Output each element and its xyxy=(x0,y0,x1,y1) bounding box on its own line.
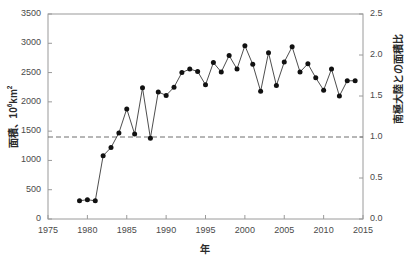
x-axis-tick-label: 1980 xyxy=(67,225,107,235)
y-axis-right-tick-label: 1.5 xyxy=(370,90,410,100)
data-point-marker xyxy=(242,43,247,48)
data-point-marker xyxy=(227,53,232,58)
x-axis-tick-label: 2005 xyxy=(264,225,304,235)
data-point-marker xyxy=(156,89,161,94)
x-axis-tick-label: 2010 xyxy=(304,225,344,235)
plot-area xyxy=(0,0,410,258)
y-axis-right-tick-label: 0.0 xyxy=(370,213,410,223)
y-axis-left-tick-label: 3000 xyxy=(0,37,41,47)
y-axis-left-tick-label: 0 xyxy=(0,213,41,223)
x-axis-tick-label: 2000 xyxy=(225,225,265,235)
data-point-marker xyxy=(77,198,82,203)
data-point-marker xyxy=(211,60,216,65)
data-point-marker xyxy=(235,67,240,72)
x-axis-tick-label: 1995 xyxy=(186,225,226,235)
data-point-marker xyxy=(329,67,334,72)
data-point-marker xyxy=(109,145,114,150)
data-point-marker xyxy=(179,70,184,75)
data-point-marker xyxy=(172,85,177,90)
data-point-marker xyxy=(313,75,318,80)
data-point-marker xyxy=(116,130,121,135)
data-point-marker xyxy=(266,50,271,55)
data-point-marker xyxy=(305,61,310,66)
data-point-marker xyxy=(195,69,200,74)
data-series-line xyxy=(80,46,356,201)
x-axis-tick-label: 1985 xyxy=(107,225,147,235)
y-axis-right-tick-label: 1.0 xyxy=(370,131,410,141)
data-point-marker xyxy=(337,94,342,99)
data-point-marker xyxy=(353,78,358,83)
y-axis-right-tick-label: 0.5 xyxy=(370,172,410,182)
data-point-marker xyxy=(298,69,303,74)
data-point-marker xyxy=(345,78,350,83)
y-axis-left-tick-label: 3500 xyxy=(0,8,41,18)
data-point-marker xyxy=(219,69,224,74)
x-axis-tick-label: 1975 xyxy=(28,225,68,235)
y-axis-left-tick-label: 500 xyxy=(0,184,41,194)
data-point-marker xyxy=(93,198,98,203)
data-point-marker xyxy=(164,93,169,98)
data-point-marker xyxy=(148,136,153,141)
data-point-marker xyxy=(132,132,137,137)
data-point-marker xyxy=(274,83,279,88)
y-axis-left-tick-label: 2000 xyxy=(0,96,41,106)
data-point-marker xyxy=(282,60,287,65)
data-point-marker xyxy=(124,106,129,111)
y-axis-left-tick-label: 1000 xyxy=(0,154,41,164)
data-point-marker xyxy=(203,82,208,87)
data-point-marker xyxy=(85,197,90,202)
y-axis-right-tick-label: 2.5 xyxy=(370,8,410,18)
chart-container: 面積、106km2 南極大陸との面積比 年 050010001500200025… xyxy=(0,0,410,258)
x-axis-tick-label: 2015 xyxy=(343,225,383,235)
y-axis-left-tick-label: 1500 xyxy=(0,125,41,135)
data-point-marker xyxy=(258,89,263,94)
plot-frame xyxy=(48,14,363,219)
y-axis-left-tick-label: 2500 xyxy=(0,67,41,77)
y-axis-right-tick-label: 2.0 xyxy=(370,49,410,59)
data-point-marker xyxy=(321,88,326,93)
data-point-marker xyxy=(250,62,255,67)
data-point-marker xyxy=(290,44,295,49)
data-point-marker xyxy=(187,67,192,72)
data-point-marker xyxy=(101,153,106,158)
x-axis-tick-label: 1990 xyxy=(146,225,186,235)
data-point-marker xyxy=(140,85,145,90)
